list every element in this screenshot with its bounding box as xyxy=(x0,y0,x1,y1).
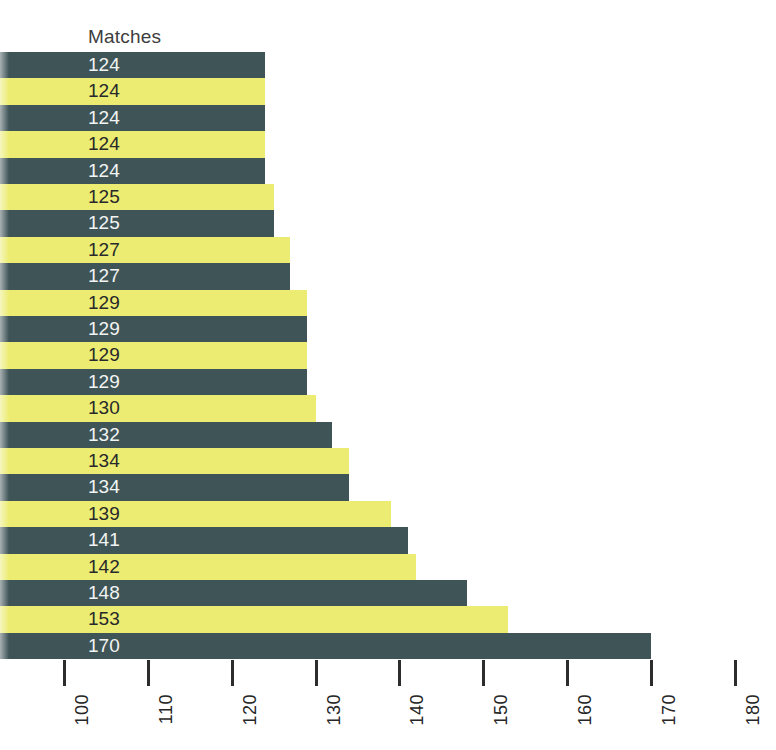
bar-value-label: 124 xyxy=(88,158,120,184)
bar xyxy=(0,184,274,210)
bar xyxy=(0,237,290,263)
bar-value-label: 142 xyxy=(88,554,120,580)
axis-tick xyxy=(63,660,66,686)
bar xyxy=(0,474,349,500)
bar-row: 139 xyxy=(0,501,776,527)
bar-value-label: 170 xyxy=(88,633,120,659)
bar xyxy=(0,158,265,184)
bar-row: 170 xyxy=(0,633,776,659)
bar xyxy=(0,369,307,395)
bar xyxy=(0,501,391,527)
bar-value-label: 129 xyxy=(88,369,120,395)
bar-row: 141 xyxy=(0,527,776,553)
bar-row: 124 xyxy=(0,52,776,78)
bar xyxy=(0,395,316,421)
bar xyxy=(0,342,307,368)
bar xyxy=(0,52,265,78)
axis-tick-label: 140 xyxy=(407,694,428,726)
bar-row: 129 xyxy=(0,342,776,368)
bar-row: 130 xyxy=(0,395,776,421)
bar-row: 142 xyxy=(0,554,776,580)
axis-tick-label: 110 xyxy=(156,694,177,724)
bar xyxy=(0,131,265,157)
bar-chart: Matches 12412412412412412512512712712912… xyxy=(0,0,776,750)
axis-tick xyxy=(315,660,318,686)
bar xyxy=(0,210,274,236)
bar-value-label: 127 xyxy=(88,263,120,289)
bars-area: 1241241241241241251251271271291291291291… xyxy=(0,52,776,660)
bar-value-label: 124 xyxy=(88,78,120,104)
bar-value-label: 129 xyxy=(88,342,120,368)
axis-tick xyxy=(147,660,150,686)
axis-tick-label: 150 xyxy=(491,694,512,726)
bar-value-label: 153 xyxy=(88,606,120,632)
bar-value-label: 141 xyxy=(88,527,120,553)
axis-tick xyxy=(650,660,653,686)
bar xyxy=(0,448,349,474)
bar-row: 124 xyxy=(0,131,776,157)
bar-value-label: 139 xyxy=(88,501,120,527)
bar-row: 129 xyxy=(0,290,776,316)
bar xyxy=(0,78,265,104)
bar xyxy=(0,105,265,131)
bar-value-label: 127 xyxy=(88,237,120,263)
bar xyxy=(0,263,290,289)
bar-row: 129 xyxy=(0,316,776,342)
column-header-matches: Matches xyxy=(88,26,161,48)
bar-row: 132 xyxy=(0,422,776,448)
bar xyxy=(0,606,508,632)
bar-value-label: 134 xyxy=(88,448,120,474)
axis-tick xyxy=(231,660,234,686)
bar-value-label: 124 xyxy=(88,105,120,131)
bar-row: 134 xyxy=(0,474,776,500)
bar-value-label: 134 xyxy=(88,474,120,500)
bar-row: 148 xyxy=(0,580,776,606)
bar xyxy=(0,422,332,448)
bar-row: 124 xyxy=(0,105,776,131)
bar-value-label: 124 xyxy=(88,52,120,78)
bar xyxy=(0,316,307,342)
bar-row: 125 xyxy=(0,210,776,236)
bar-value-label: 129 xyxy=(88,316,120,342)
bar xyxy=(0,580,467,606)
bar-row: 129 xyxy=(0,369,776,395)
axis-tick xyxy=(734,660,737,686)
bar-value-label: 130 xyxy=(88,395,120,421)
axis-tick-label: 100 xyxy=(72,694,93,726)
bar-value-label: 129 xyxy=(88,290,120,316)
axis-tick xyxy=(482,660,485,686)
bar-value-label: 148 xyxy=(88,580,120,606)
axis-tick xyxy=(566,660,569,686)
bar-row: 125 xyxy=(0,184,776,210)
axis-tick-label: 130 xyxy=(324,694,345,726)
bar xyxy=(0,290,307,316)
axis-tick-label: 120 xyxy=(240,694,261,726)
bar xyxy=(0,554,416,580)
bar-row: 124 xyxy=(0,158,776,184)
axis-tick-label: 160 xyxy=(575,694,596,726)
bar-value-label: 125 xyxy=(88,184,120,210)
bar-value-label: 125 xyxy=(88,210,120,236)
bar-row: 124 xyxy=(0,78,776,104)
axis-tick xyxy=(398,660,401,686)
bar-row: 127 xyxy=(0,263,776,289)
bar-row: 134 xyxy=(0,448,776,474)
bar xyxy=(0,527,408,553)
bar-row: 127 xyxy=(0,237,776,263)
bar-value-label: 132 xyxy=(88,422,120,448)
value-axis: 100110120130140150160170180 xyxy=(0,660,776,750)
bar-value-label: 124 xyxy=(88,131,120,157)
axis-tick-label: 170 xyxy=(659,694,680,726)
axis-tick-label: 180 xyxy=(743,694,764,726)
bar-row: 153 xyxy=(0,606,776,632)
